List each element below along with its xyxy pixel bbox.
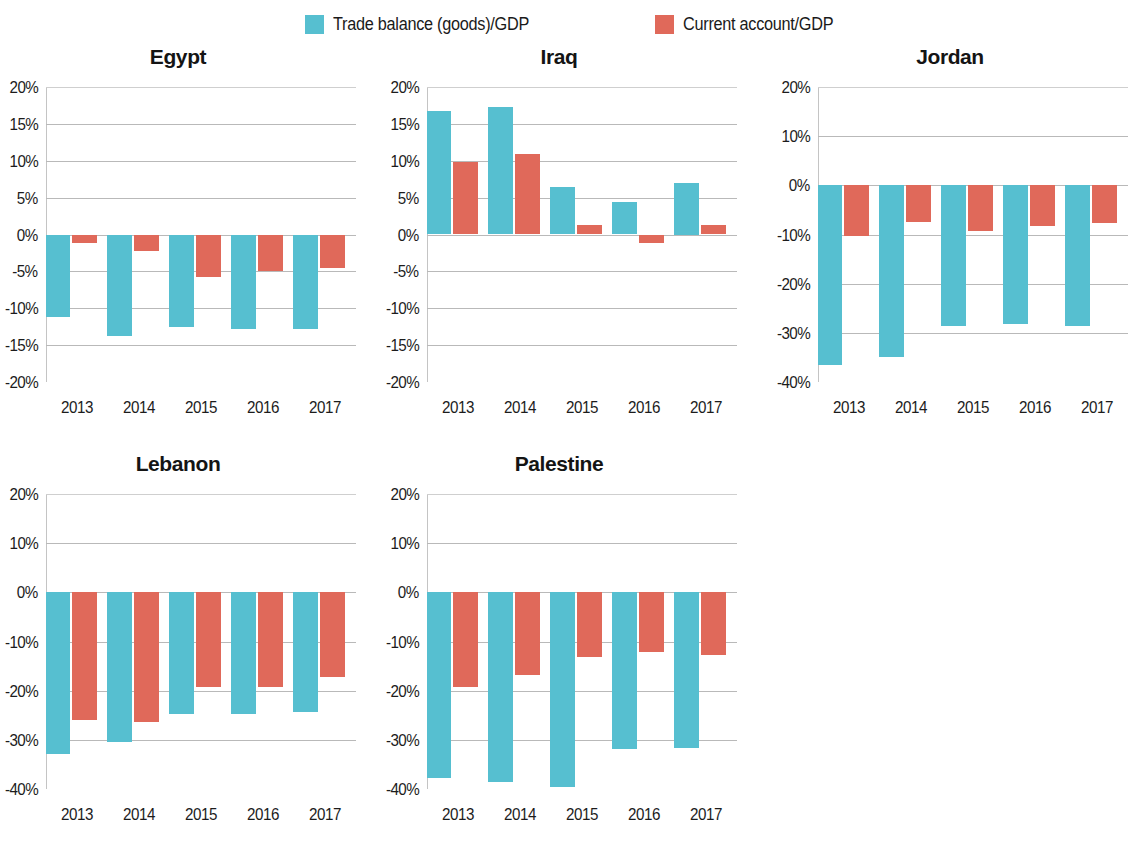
x-axis-tick-label: 2016: [234, 398, 291, 417]
bar-trade-balance-2015: [550, 187, 575, 234]
y-axis-tick-label: -10%: [386, 632, 419, 651]
y-axis-tick-label: -20%: [386, 681, 419, 700]
y-axis-tick-label: 10%: [390, 534, 419, 553]
x-axis-tick-label: 2014: [491, 398, 548, 417]
bar-trade-balance-2014: [879, 185, 904, 357]
legend-item: Trade balance (goods)/GDP: [305, 14, 544, 35]
x-axis-tick-label: 2017: [296, 805, 353, 824]
bar-trade-balance-2017: [1065, 185, 1090, 326]
bar-trade-balance-2017: [293, 235, 318, 329]
x-axis-tick-label: 2017: [296, 398, 353, 417]
x-axis-tick-label: 2013: [48, 398, 105, 417]
bar-current-account-2017: [1092, 185, 1117, 223]
legend-swatch-icon: [655, 15, 674, 34]
bar-trade-balance-2013: [46, 235, 70, 318]
gridline: [46, 161, 356, 162]
bar-current-account-2014: [515, 592, 540, 675]
bar-trade-balance-2015: [169, 235, 194, 328]
y-axis-tick-label: 0%: [398, 225, 419, 244]
bar-trade-balance-2016: [231, 592, 256, 714]
bar-current-account-2015: [196, 592, 221, 686]
gridline: [818, 87, 1128, 88]
bar-current-account-2013: [72, 235, 97, 244]
x-axis-tick-label: 2013: [429, 805, 486, 824]
plot-area: [427, 494, 737, 789]
bar-current-account-2016: [258, 592, 283, 686]
gridline: [427, 345, 737, 346]
x-axis-tick-label: 2013: [48, 805, 105, 824]
x-axis-tick-label: 2015: [553, 805, 610, 824]
bar-current-account-2013: [453, 592, 478, 687]
bar-trade-balance-2013: [818, 185, 842, 364]
y-axis-tick-label: 5%: [17, 188, 38, 207]
bar-trade-balance-2016: [612, 202, 637, 234]
y-axis-tick-label: 5%: [398, 188, 419, 207]
legend-item: Current account/GDP: [655, 14, 845, 35]
y-axis-tick-label: -15%: [386, 336, 419, 355]
bar-trade-balance-2013: [46, 592, 70, 753]
panel-title: Palestine: [381, 452, 737, 476]
legend-label: Trade balance (goods)/GDP: [333, 14, 529, 35]
gridline: [46, 543, 356, 544]
bar-current-account-2014: [134, 592, 159, 721]
y-axis-tick-label: -5%: [13, 262, 38, 281]
y-axis-tick-label: -10%: [5, 632, 38, 651]
bar-trade-balance-2017: [674, 592, 699, 748]
bar-current-account-2017: [701, 592, 726, 655]
bar-current-account-2017: [320, 592, 345, 677]
bar-trade-balance-2015: [941, 185, 966, 326]
y-axis-tick-label: 10%: [9, 151, 38, 170]
bar-trade-balance-2015: [550, 592, 575, 786]
bar-trade-balance-2016: [231, 235, 256, 329]
y-axis-tick-label: -20%: [5, 681, 38, 700]
panel-title: Lebanon: [0, 452, 356, 476]
bar-current-account-2017: [320, 235, 345, 268]
y-axis-tick-label: -20%: [777, 274, 810, 293]
gridline: [427, 543, 737, 544]
gridline: [427, 124, 737, 125]
bar-trade-balance-2014: [107, 592, 132, 742]
gridline: [427, 87, 737, 88]
y-axis-tick-label: 0%: [17, 225, 38, 244]
x-axis-tick-label: 2014: [491, 805, 548, 824]
x-axis-tick-label: 2016: [615, 398, 672, 417]
gridline: [46, 494, 356, 495]
y-axis-tick-label: 10%: [9, 534, 38, 553]
legend-swatch-icon: [305, 15, 324, 34]
bar-trade-balance-2014: [488, 107, 513, 235]
bar-current-account-2015: [196, 235, 221, 277]
gridline: [46, 740, 356, 741]
y-axis-tick-label: -40%: [777, 373, 810, 392]
y-axis-tick-label: -20%: [5, 373, 38, 392]
plot-area: [46, 87, 356, 382]
bar-current-account-2016: [639, 592, 664, 652]
y-axis-tick-label: 20%: [9, 485, 38, 504]
gridline: [818, 333, 1128, 334]
y-axis-tick-label: 20%: [9, 78, 38, 97]
y-axis-tick-label: 20%: [390, 485, 419, 504]
y-axis-tick-label: 15%: [9, 114, 38, 133]
x-axis-tick-label: 2014: [110, 398, 167, 417]
y-axis-tick-label: -10%: [777, 225, 810, 244]
chart-panel-egypt: Egypt20%15%10%5%0%-5%-10%-15%-20%2013201…: [0, 45, 374, 440]
bar-trade-balance-2014: [107, 235, 132, 337]
plot-area: [818, 87, 1128, 382]
x-axis-tick-label: 2017: [1068, 398, 1125, 417]
x-axis-tick-label: 2013: [820, 398, 877, 417]
x-axis-tick-label: 2013: [429, 398, 486, 417]
gridline: [46, 345, 356, 346]
bar-current-account-2015: [577, 225, 602, 235]
y-axis-tick-label: 10%: [390, 151, 419, 170]
gridline: [818, 136, 1128, 137]
bar-current-account-2015: [577, 592, 602, 657]
bar-trade-balance-2015: [169, 592, 194, 714]
gridline: [46, 198, 356, 199]
y-axis-tick-label: 20%: [390, 78, 419, 97]
y-axis-tick-label: -30%: [777, 323, 810, 342]
bar-current-account-2016: [1030, 185, 1055, 225]
bar-trade-balance-2014: [488, 592, 513, 781]
bar-current-account-2016: [258, 235, 283, 272]
y-axis-tick-label: 0%: [398, 583, 419, 602]
x-axis-tick-label: 2016: [615, 805, 672, 824]
x-axis-tick-label: 2016: [234, 805, 291, 824]
